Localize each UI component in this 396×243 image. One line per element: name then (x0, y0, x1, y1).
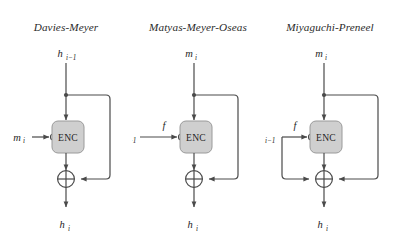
construction-panel-davies-meyer: Davies-Meyer (0, 0, 132, 243)
wire-chaining-feedback-to-xor (282, 137, 309, 179)
diagram-matyas-meyer-oseas: ENC m i h i−1 f h i (132, 0, 264, 243)
cipher-block-label: ENC (186, 132, 206, 143)
cipher-block-label: ENC (58, 132, 78, 143)
top-input-label-subscript: i−1 (66, 54, 76, 62)
side-input-label-subscript: i−1 (265, 137, 275, 145)
output-label-subscript: i (196, 225, 198, 233)
output-label-base: h (317, 219, 322, 230)
hash-compression-constructions-figure: Davies-Meyer (0, 0, 396, 243)
construction-panel-miyaguchi-preneel: Miyaguchi-Preneel ENC (264, 0, 396, 243)
transform-function-label: f (163, 120, 168, 131)
construction-panel-matyas-meyer-oseas: Matyas-Meyer-Oseas ENC (132, 0, 264, 243)
side-input-label-subscript: i−1 (132, 137, 136, 145)
cipher-block-label: ENC (316, 132, 336, 143)
top-input-label-subscript: i (195, 54, 197, 62)
output-label-base: h (187, 219, 192, 230)
side-input-label-base: m (13, 132, 21, 143)
side-input-label-subscript: i (23, 137, 25, 145)
output-label-subscript: i (326, 225, 328, 233)
transform-function-label: f (294, 120, 299, 131)
top-input-label-base: m (315, 48, 323, 59)
output-label-base: h (59, 219, 64, 230)
top-input-label-base: h (57, 48, 62, 59)
output-label-subscript: i (68, 225, 70, 233)
diagram-miyaguchi-preneel: ENC m i h i−1 f h i (264, 0, 396, 243)
top-input-label-base: m (185, 48, 193, 59)
top-input-label-subscript: i (325, 54, 327, 62)
diagram-davies-meyer: ENC h i−1 m i h i (0, 0, 132, 243)
